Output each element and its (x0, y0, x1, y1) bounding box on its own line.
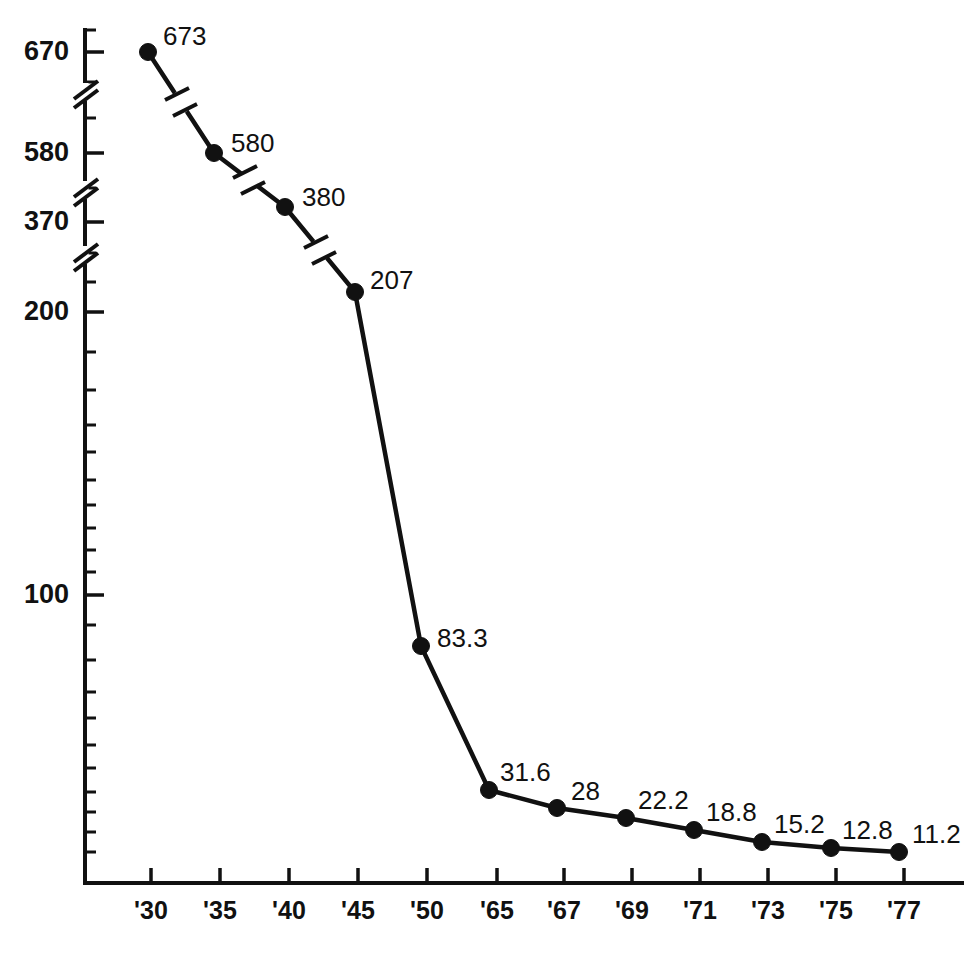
series-polyline (148, 52, 899, 852)
y-axis-label: 100 (24, 579, 69, 609)
data-point (754, 834, 771, 851)
data-point (891, 844, 908, 861)
x-axis-label: '45 (341, 896, 375, 924)
data-point-label: 380 (302, 182, 345, 212)
y-axis-label: 200 (24, 296, 69, 326)
data-point-label: 673 (163, 21, 206, 51)
y-axis-label: 580 (24, 137, 69, 167)
data-point-label: 580 (231, 128, 274, 158)
x-axis-ticks (151, 868, 904, 883)
chart-container: 670580370200100 '30'35'40'45'50'65'67'69… (0, 0, 972, 959)
x-axis-label: '73 (751, 896, 785, 924)
data-point (347, 284, 364, 301)
data-point-label: 11.2 (912, 819, 961, 849)
x-axis-label: '71 (683, 896, 717, 924)
data-point (686, 822, 703, 839)
data-point (823, 840, 840, 857)
data-point-label: 28 (571, 776, 600, 806)
data-point-label: 18.8 (706, 797, 757, 827)
x-axis-label: '50 (410, 896, 444, 924)
data-point-label: 15.2 (774, 809, 825, 839)
data-series-line (148, 52, 899, 852)
data-point-label: 31.6 (500, 757, 551, 787)
x-axis-label: '35 (203, 896, 237, 924)
data-point-label: 83.3 (437, 623, 488, 653)
data-point (140, 44, 157, 61)
y-axis-ticks (85, 30, 104, 852)
data-point (481, 782, 498, 799)
y-axis-label: 670 (24, 36, 69, 66)
x-axis-label: '77 (887, 896, 921, 924)
x-axis-label: '69 (615, 896, 649, 924)
data-point (206, 145, 223, 162)
data-point-label: 12.8 (842, 815, 893, 845)
data-point (549, 800, 566, 817)
line-chart: 670580370200100 '30'35'40'45'50'65'67'69… (0, 0, 972, 959)
y-axis-label: 370 (24, 206, 69, 236)
data-point-label: 22.2 (638, 785, 689, 815)
x-axis-label: '65 (480, 896, 514, 924)
data-point-label: 207 (370, 265, 413, 295)
data-point-labels: 67358038020783.331.62822.218.815.212.811… (163, 21, 961, 849)
x-axis-label: '67 (547, 896, 581, 924)
x-axis-label: '75 (819, 896, 853, 924)
data-point (277, 199, 294, 216)
y-axis-tick-labels: 670580370200100 (24, 36, 69, 609)
data-point (413, 638, 430, 655)
x-axis-tick-labels: '30'35'40'45'50'65'67'69'71'73'75'77 (134, 896, 921, 924)
x-axis-label: '40 (272, 896, 306, 924)
data-point (618, 810, 635, 827)
x-axis-label: '30 (134, 896, 168, 924)
